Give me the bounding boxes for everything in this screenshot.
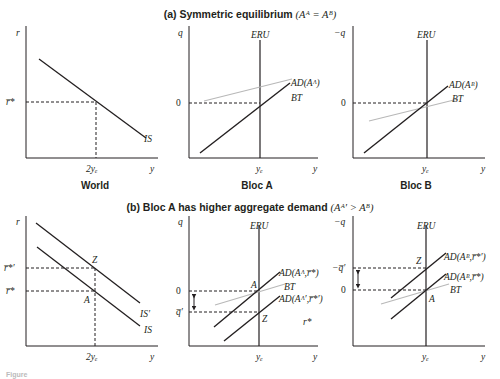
point-a: A <box>250 280 257 290</box>
y-axis-label: r <box>16 217 20 227</box>
eru-label: ERU <box>416 221 437 231</box>
bt-line <box>369 99 458 121</box>
y-axis-label: r <box>16 28 20 38</box>
tick-zero: 0 <box>341 98 346 108</box>
x-axis-label: y <box>312 164 318 174</box>
tick-ye: yₑ <box>255 352 263 362</box>
annotation-r-star: r* <box>303 317 312 327</box>
ad-label-2: AD(Aᴬ′,r̅*′) <box>278 294 323 305</box>
x-axis-label: y <box>312 352 318 362</box>
point-a: A <box>428 294 435 304</box>
panel-b-bloc-b: −q y ERU Z A AD(Aᴮ,r̅*′) AD(Aᴮ,r̅*) BT −… <box>332 216 486 362</box>
x-axis-label: y <box>149 352 155 362</box>
point-z: Z <box>262 314 268 324</box>
x-axis-label: y <box>149 164 155 174</box>
tick-ye: yₑ <box>421 164 429 174</box>
ad-line <box>200 83 290 153</box>
eru-label: ERU <box>416 30 437 40</box>
ad-line-lower <box>391 274 446 319</box>
is-prime-label: IS′ <box>139 309 151 319</box>
is-label: IS <box>143 325 152 335</box>
bt-label: BT <box>284 282 296 292</box>
tick-2ye: 2yₑ <box>86 164 98 174</box>
y-axis-label: q <box>178 217 183 227</box>
ad-label: AD(Aᴬ) <box>290 78 320 89</box>
tick-q-prime: q̅′ <box>176 307 184 317</box>
bt-label: BT <box>291 93 303 103</box>
x-axis-label: y <box>480 164 486 174</box>
figure-caption: Figure <box>6 371 27 378</box>
tick-q-prime: −q̅′ <box>332 263 346 273</box>
tick-zero: 0 <box>176 98 181 108</box>
ad-line-2 <box>224 296 280 341</box>
ad-label-1: AD(Aᴬ,r̅*) <box>278 268 319 279</box>
panel-b-world: r y Z A IS′ IS r̅*′ r̅* 2yₑ <box>4 216 158 362</box>
y-axis-label: q <box>178 28 183 38</box>
tick-ye: yₑ <box>421 352 429 362</box>
panel-a-bloc-a: q y ERU AD(Aᴬ) BT 0 yₑ <box>176 26 320 174</box>
panel-a-bloc-b: −q y ERU AD(Aᴮ) BT 0 yₑ <box>334 26 486 174</box>
point-a: A <box>83 295 90 305</box>
ad-line-1 <box>214 272 280 327</box>
ad-label-upper: AD(Aᴮ,r̅*′) <box>443 252 486 263</box>
bt-line <box>204 79 292 101</box>
y-axis-label: −q <box>334 28 345 38</box>
tick-2ye: 2yₑ <box>86 352 98 362</box>
panel-b-bloc-a: q y ERU A Z AD(Aᴬ,r̅*) BT AD(Aᴬ′,r̅*′) r… <box>176 216 323 362</box>
point-z: Z <box>416 256 422 266</box>
bt-label: BT <box>452 94 464 104</box>
tick-zero: 0 <box>176 286 181 296</box>
bt-line <box>215 284 285 305</box>
ad-label: AD(Aᴮ) <box>448 80 478 91</box>
bt-line <box>381 284 449 304</box>
eru-label: ERU <box>249 221 270 231</box>
tick-zero: 0 <box>341 285 346 295</box>
panel-a-world: r y IS r̅* 2yₑ <box>6 26 158 174</box>
tick-r-star: r̅* <box>6 286 15 296</box>
point-z: Z <box>92 255 98 265</box>
tick-r-star: r̅* <box>6 97 15 107</box>
x-axis-label: y <box>480 352 486 362</box>
diagram-canvas: r y IS r̅* 2yₑ q y ERU AD(Aᴬ) BT 0 yₑ −q… <box>0 0 500 379</box>
is-curve <box>37 247 140 326</box>
eru-label: ERU <box>250 30 271 40</box>
bt-label: BT <box>450 285 462 295</box>
is-label: IS <box>143 134 152 144</box>
tick-r-star-prime: r̅*′ <box>4 263 16 273</box>
y-axis-label: −q <box>334 217 345 227</box>
is-curve <box>39 59 146 138</box>
ad-label-lower: AD(Aᴮ,r̅*) <box>443 272 484 283</box>
tick-ye: yₑ <box>255 164 263 174</box>
